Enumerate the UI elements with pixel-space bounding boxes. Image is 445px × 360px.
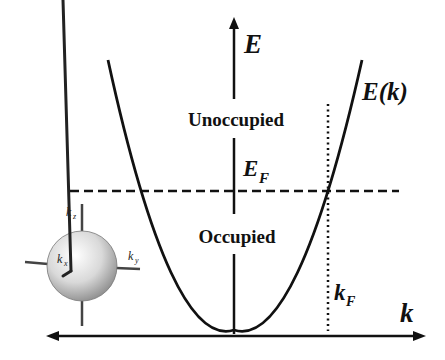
curve-label: E(k) [361, 78, 408, 106]
occupied-label: Occupied [198, 226, 275, 247]
svg-text:F: F [345, 294, 356, 309]
unoccupied-label: Unoccupied [188, 109, 285, 130]
svg-text:k: k [334, 280, 346, 305]
k-axis-left-arrow-icon [46, 331, 59, 341]
svg-text:k: k [66, 205, 72, 219]
e-axis-label: E [243, 29, 262, 59]
sphere-icon [47, 231, 117, 301]
svg-text:E: E [242, 156, 258, 181]
svg-text:y: y [134, 256, 139, 265]
k-axis-label: k [400, 298, 414, 328]
fermi-energy-label: E F [242, 156, 269, 186]
sphere-ky-label: k y [128, 249, 139, 265]
dispersion-diagram: E k E(k) Unoccupied Occupied E F k F k z… [0, 0, 445, 360]
svg-text:k: k [128, 249, 134, 263]
svg-text:z: z [72, 212, 77, 221]
svg-text:k: k [57, 252, 63, 266]
svg-text:x: x [63, 259, 68, 268]
k-axis-right-arrow-icon [413, 331, 426, 341]
sphere-kz-label: k z [66, 205, 77, 221]
k-axis [46, 331, 426, 341]
fermi-sphere: k z k x k y [25, 0, 140, 326]
svg-text:F: F [258, 170, 269, 186]
fermi-wavevector-label: k F [334, 280, 356, 309]
e-axis [229, 17, 239, 334]
